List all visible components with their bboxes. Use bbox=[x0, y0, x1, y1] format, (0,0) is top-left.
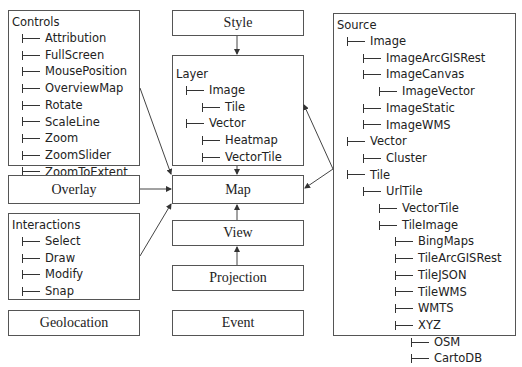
tree-item-label: TileWMS bbox=[418, 284, 467, 301]
tree-item-label: ScaleLine bbox=[45, 114, 100, 131]
tree-item: Rotate bbox=[12, 97, 139, 114]
tree-item: Image bbox=[176, 82, 303, 99]
tree-branch-icon bbox=[363, 54, 381, 63]
tree-branch-icon bbox=[363, 104, 381, 113]
layer-title: Layer bbox=[176, 66, 303, 82]
tree-item: VectorTile bbox=[337, 200, 515, 217]
controls-list: AttributionFullScreenMousePositionOvervi… bbox=[12, 30, 139, 180]
geolocation-box: Geolocation bbox=[8, 310, 140, 336]
tree-item: MousePosition bbox=[12, 63, 139, 80]
tree-item-label: TileJSON bbox=[418, 267, 466, 284]
view-label: View bbox=[223, 225, 252, 241]
tree-item-label: Tile bbox=[225, 99, 245, 116]
source-list: ImageImageArcGISRestImageCanvasImageVect… bbox=[337, 33, 515, 367]
map-label: Map bbox=[225, 182, 251, 198]
tree-branch-icon bbox=[22, 287, 40, 296]
tree-item-label: CartoDB bbox=[434, 350, 482, 367]
tree-item-label: Heatmap bbox=[225, 132, 278, 149]
tree-item: Attribution bbox=[12, 30, 139, 47]
tree-item: Vector bbox=[176, 115, 303, 132]
tree-item: Vector bbox=[337, 133, 515, 150]
tree-item: Draw bbox=[12, 250, 139, 267]
layer-box: Layer ImageTileVectorHeatmapVectorTile bbox=[172, 55, 304, 166]
tree-item: TileJSON bbox=[337, 267, 515, 284]
tree-branch-icon bbox=[395, 304, 413, 313]
tree-item-label: OverviewMap bbox=[45, 80, 123, 97]
tree-item: CartoDB bbox=[337, 350, 515, 367]
interactions-title: Interactions bbox=[12, 217, 139, 233]
tree-item: OSM bbox=[337, 334, 515, 351]
tree-item-label: Rotate bbox=[45, 97, 83, 114]
tree-item: ImageVector bbox=[337, 83, 515, 100]
tree-item-label: VectorTile bbox=[225, 149, 282, 166]
tree-branch-icon bbox=[186, 119, 204, 128]
tree-item: OverviewMap bbox=[12, 80, 139, 97]
tree-branch-icon bbox=[379, 204, 397, 213]
tree-branch-icon bbox=[186, 86, 204, 95]
tree-branch-icon bbox=[202, 136, 220, 145]
tree-branch-icon bbox=[395, 321, 413, 330]
projection-box: Projection bbox=[172, 265, 304, 291]
tree-branch-icon bbox=[363, 70, 381, 79]
tree-item-label: Image bbox=[209, 82, 245, 99]
tree-item: ImageWMS bbox=[337, 117, 515, 134]
tree-item: ImageStatic bbox=[337, 100, 515, 117]
tree-branch-icon bbox=[347, 170, 365, 179]
tree-branch-icon bbox=[363, 187, 381, 196]
tree-item-label: ImageCanvas bbox=[386, 66, 464, 83]
tree-item: BingMaps bbox=[337, 233, 515, 250]
tree-item-label: Attribution bbox=[45, 30, 106, 47]
tree-branch-icon bbox=[347, 137, 365, 146]
edge-controls-map bbox=[140, 88, 171, 174]
tree-item-label: ImageVector bbox=[402, 83, 475, 100]
view-box: View bbox=[172, 220, 304, 246]
tree-item-label: Vector bbox=[370, 133, 407, 150]
layer-list: ImageTileVectorHeatmapVectorTile bbox=[176, 82, 303, 166]
controls-box: Controls AttributionFullScreenMousePosit… bbox=[8, 10, 140, 166]
tree-item-label: Select bbox=[45, 233, 80, 250]
projection-label: Projection bbox=[209, 270, 267, 286]
tree-item-label: ZoomSlider bbox=[45, 147, 111, 164]
tree-item-label: Snap bbox=[45, 283, 74, 300]
tree-item-label: ImageStatic bbox=[386, 100, 455, 117]
tree-item: ScaleLine bbox=[12, 114, 139, 131]
source-box: Source ImageImageArcGISRestImageCanvasIm… bbox=[333, 13, 516, 336]
tree-item: Image bbox=[337, 33, 515, 50]
tree-branch-icon bbox=[395, 254, 413, 263]
tree-branch-icon bbox=[363, 154, 381, 163]
tree-item: Zoom bbox=[12, 130, 139, 147]
style-box: Style bbox=[172, 10, 304, 36]
tree-branch-icon bbox=[22, 254, 40, 263]
tree-item: VectorTile bbox=[176, 149, 303, 166]
tree-item-label: FullScreen bbox=[45, 47, 104, 64]
overlay-label: Overlay bbox=[51, 182, 96, 198]
tree-branch-icon bbox=[22, 67, 40, 76]
tree-item-label: VectorTile bbox=[402, 200, 459, 217]
tree-item: Tile bbox=[176, 99, 303, 116]
tree-item-label: BingMaps bbox=[418, 233, 474, 250]
tree-item: ImageArcGISRest bbox=[337, 50, 515, 67]
tree-item-label: TileArcGISRest bbox=[418, 250, 501, 267]
tree-branch-icon bbox=[22, 134, 40, 143]
tree-item-label: Cluster bbox=[386, 150, 427, 167]
tree-item: ImageCanvas bbox=[337, 66, 515, 83]
tree-branch-icon bbox=[379, 87, 397, 96]
tree-item: WMTS bbox=[337, 300, 515, 317]
tree-item-label: ImageArcGISRest bbox=[386, 50, 485, 67]
tree-item: ZoomSlider bbox=[12, 147, 139, 164]
tree-item-label: WMTS bbox=[418, 300, 454, 317]
tree-item: TileImage bbox=[337, 217, 515, 234]
tree-branch-icon bbox=[22, 101, 40, 110]
event-box: Event bbox=[172, 310, 304, 336]
tree-branch-icon bbox=[379, 221, 397, 230]
tree-item: TileArcGISRest bbox=[337, 250, 515, 267]
tree-item: Modify bbox=[12, 266, 139, 283]
tree-branch-icon bbox=[347, 37, 365, 46]
tree-item-label: OSM bbox=[434, 334, 460, 351]
tree-item-label: Zoom bbox=[45, 130, 78, 147]
tree-item-label: Image bbox=[370, 33, 406, 50]
style-label: Style bbox=[224, 15, 253, 31]
tree-item: XYZ bbox=[337, 317, 515, 334]
event-label: Event bbox=[222, 315, 255, 331]
tree-item-label: MousePosition bbox=[45, 63, 127, 80]
